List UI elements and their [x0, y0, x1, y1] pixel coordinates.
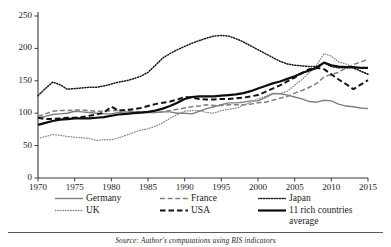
y-tick-label: 100 — [2, 108, 32, 117]
x-tick-label: 2005 — [275, 183, 315, 192]
legend-swatch-usa — [160, 205, 188, 216]
source-note: Source: Author's computations using BIS … — [0, 236, 391, 245]
x-tick-label: 1975 — [55, 183, 95, 192]
legend-item[interactable]: Germany — [55, 193, 121, 204]
series-line-11-rich-countries-average — [38, 63, 368, 125]
legend-label: France — [191, 193, 217, 204]
legend-label: USA — [191, 205, 210, 216]
legend-item[interactable]: UK — [55, 205, 100, 216]
x-tick-label: 1990 — [165, 183, 205, 192]
figure-container: 050100150200250 197019751980198519901995… — [0, 0, 391, 247]
y-tick-label: 250 — [2, 11, 32, 20]
x-tick-label: 1970 — [18, 183, 58, 192]
y-tick-label: 150 — [2, 76, 32, 85]
legend-swatch-uk — [55, 205, 83, 216]
y-tick-label: 200 — [2, 43, 32, 52]
x-tick-label: 2010 — [311, 183, 351, 192]
legend-item[interactable]: 11 rich countriesaverage — [258, 205, 353, 226]
chart-legend: GermanyFranceJapanUKUSA11 rich countries… — [0, 193, 391, 231]
legend-swatch-11-rich-countries — [258, 205, 286, 216]
y-tick-label: 0 — [2, 173, 32, 182]
legend-item[interactable]: USA — [160, 205, 210, 216]
chart-plot-area: 050100150200250 197019751980198519901995… — [0, 0, 391, 195]
legend-label: Japan — [289, 193, 311, 204]
y-tick-label: 50 — [2, 141, 32, 150]
footer-divider — [8, 232, 383, 233]
chart-svg — [0, 0, 391, 195]
legend-label: 11 rich countriesaverage — [289, 205, 353, 226]
legend-label: UK — [86, 205, 100, 216]
legend-item[interactable]: France — [160, 193, 217, 204]
legend-swatch-germany — [55, 193, 83, 204]
x-tick-label: 1985 — [128, 183, 168, 192]
legend-label: Germany — [86, 193, 121, 204]
chart-series — [38, 35, 368, 140]
x-tick-label: 2000 — [238, 183, 278, 192]
x-tick-label: 1980 — [91, 183, 131, 192]
legend-swatch-japan — [258, 193, 286, 204]
legend-item[interactable]: Japan — [258, 193, 311, 204]
x-tick-label: 1995 — [201, 183, 241, 192]
x-tick-label: 2015 — [348, 183, 388, 192]
legend-swatch-france — [160, 193, 188, 204]
